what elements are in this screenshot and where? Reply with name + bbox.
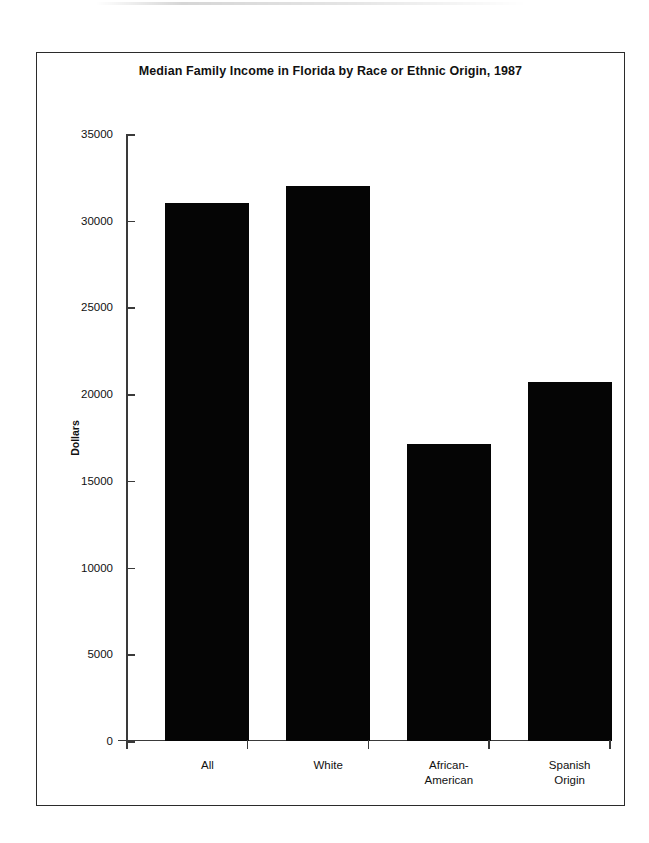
x-axis-category-line: Spanish xyxy=(549,758,591,773)
x-axis-category-line: Origin xyxy=(549,773,591,788)
y-tick-label: 30000 xyxy=(81,215,113,227)
y-tick-label: 25000 xyxy=(81,301,113,313)
x-axis-category-label: SpanishOrigin xyxy=(549,758,591,788)
y-tick-mark xyxy=(126,394,135,396)
y-tick-mark xyxy=(126,307,135,309)
x-tick-mark xyxy=(609,740,611,749)
bar xyxy=(528,382,612,741)
y-tick-mark xyxy=(126,134,135,136)
scan-artifact xyxy=(96,2,526,5)
y-tick-label: 35000 xyxy=(81,128,113,140)
x-axis-category-line: All xyxy=(201,758,214,773)
y-tick-label: 10000 xyxy=(81,562,113,574)
plot-area: Dollars 05000100001500020000250003000035… xyxy=(126,134,609,741)
x-axis-category-label: White xyxy=(313,758,342,773)
x-tick-mark xyxy=(126,740,128,749)
y-tick-label: 15000 xyxy=(81,475,113,487)
chart-title: Median Family Income in Florida by Race … xyxy=(37,64,624,78)
y-tick-label: 20000 xyxy=(81,388,113,400)
x-tick-mark xyxy=(368,740,370,749)
y-tick-mark xyxy=(126,481,135,483)
y-tick-label: 0 xyxy=(107,735,113,747)
x-axis-category-line: American xyxy=(425,773,474,788)
bar xyxy=(286,186,370,741)
x-axis-category-label: All xyxy=(201,758,214,773)
y-axis-line xyxy=(126,134,128,741)
x-tick-mark xyxy=(247,740,249,749)
y-tick-mark xyxy=(126,221,135,223)
x-tick-mark xyxy=(488,740,490,749)
y-axis-label: Dollars xyxy=(69,420,81,456)
bar xyxy=(407,444,491,741)
x-axis-category-line: White xyxy=(313,758,342,773)
x-axis-category-label: African-American xyxy=(425,758,474,788)
y-tick-mark xyxy=(126,654,135,656)
bar xyxy=(165,203,249,741)
y-tick-mark xyxy=(126,568,135,570)
y-tick-label: 5000 xyxy=(87,648,113,660)
x-axis-category-line: African- xyxy=(425,758,474,773)
chart-figure-frame: Median Family Income in Florida by Race … xyxy=(36,52,625,806)
